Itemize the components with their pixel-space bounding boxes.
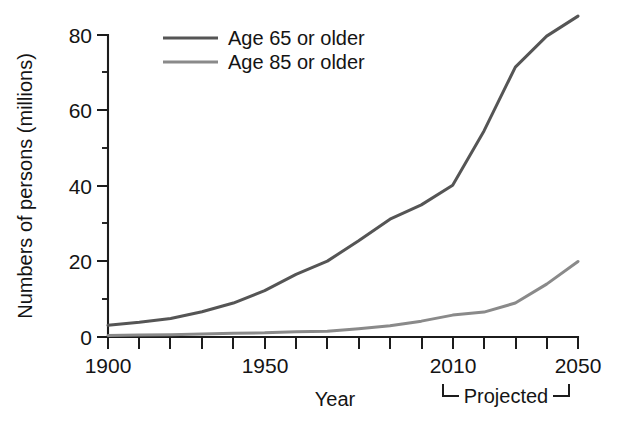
y-tick-label-80: 80 [69, 24, 92, 47]
y-axis-major-ticks [97, 35, 108, 337]
chart-canvas: 80 60 40 20 0 1900 1950 2010 2050 Year N… [0, 0, 627, 435]
x-axis-title: Year [315, 388, 356, 410]
x-tick-label-2010: 2010 [430, 354, 477, 377]
y-tick-label-60: 60 [69, 99, 92, 122]
projected-label: Projected [464, 385, 549, 407]
y-tick-label-0: 0 [80, 326, 92, 349]
y-axis-title: Numbers of persons (millions) [14, 53, 36, 319]
x-tick-label-1950: 1950 [242, 354, 289, 377]
legend-label-age-85-or-older: Age 85 or older [228, 51, 365, 73]
y-tick-label-40: 40 [69, 175, 92, 198]
line-chart-figure: 80 60 40 20 0 1900 1950 2010 2050 Year N… [0, 0, 627, 435]
x-tick-label-2050: 2050 [555, 354, 602, 377]
x-tick-label-1900: 1900 [85, 354, 132, 377]
y-tick-label-20: 20 [69, 250, 92, 273]
x-axis-ticks [108, 337, 578, 349]
series-line-age-85-or-older [108, 262, 578, 336]
chart-legend: Age 65 or older Age 85 or older [163, 27, 365, 73]
legend-label-age-65-or-older: Age 65 or older [228, 27, 365, 49]
